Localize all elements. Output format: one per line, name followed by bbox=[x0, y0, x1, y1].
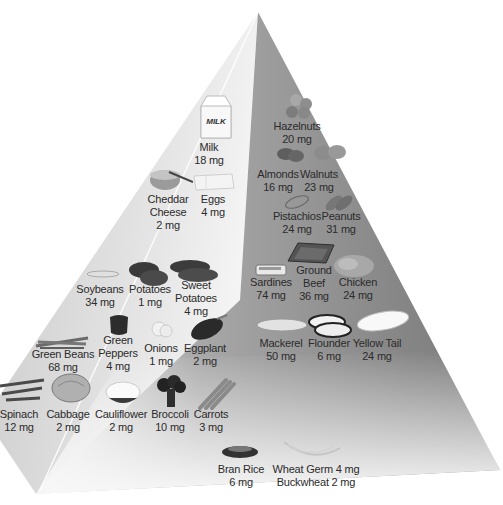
purine-value: 36 mg bbox=[296, 290, 332, 303]
purine-value: 4 mg bbox=[98, 360, 138, 373]
food-name: Soybeans bbox=[76, 283, 123, 296]
label-flounder: Flounder6 mg bbox=[308, 337, 350, 363]
pistachios-icon bbox=[282, 194, 312, 210]
purine-value: 2 mg bbox=[95, 421, 147, 434]
purine-value: 34 mg bbox=[76, 296, 123, 309]
food-name: Ground bbox=[296, 264, 332, 277]
wheat-icon bbox=[282, 440, 342, 462]
purine-value: 1 mg bbox=[129, 296, 171, 309]
food-name: Milk bbox=[194, 141, 224, 154]
food-name: Cheese bbox=[148, 206, 189, 219]
label-cabbage: Cabbage2 mg bbox=[46, 408, 89, 434]
label-yellow-tail: Yellow Tail24 mg bbox=[353, 337, 402, 363]
purine-value: 31 mg bbox=[322, 223, 361, 236]
food-name: Bran Rice bbox=[218, 463, 265, 476]
food-name: Onions bbox=[144, 342, 178, 355]
food-name: Buckwheat 2 mg bbox=[273, 476, 360, 489]
label-carrots: Carrots3 mg bbox=[194, 408, 229, 434]
food-name: Pistachios bbox=[273, 210, 321, 223]
label-eggplant: Eggplant2 mg bbox=[184, 342, 226, 368]
food-name: Green Beans bbox=[32, 348, 95, 361]
spinach-icon bbox=[0, 374, 46, 404]
food-name: Mackerel bbox=[259, 337, 302, 350]
cheese-icon bbox=[149, 166, 193, 192]
purine-value: 12 mg bbox=[0, 421, 38, 434]
yellowtail-icon bbox=[355, 308, 415, 334]
purine-value: 2 mg bbox=[184, 355, 226, 368]
food-name: Sardines bbox=[250, 276, 292, 289]
label-hazelnuts: Hazelnuts20 mg bbox=[273, 120, 320, 146]
svg-text:MILK: MILK bbox=[206, 117, 227, 126]
purine-value: 3 mg bbox=[194, 421, 229, 434]
label-peanuts: Peanuts31 mg bbox=[322, 210, 361, 236]
label-potatoes: Potatoes1 mg bbox=[129, 283, 171, 309]
label-soybeans: Soybeans34 mg bbox=[76, 283, 123, 309]
label-cheddar-cheese: CheddarCheese2 mg bbox=[148, 193, 189, 232]
purine-value: 6 mg bbox=[308, 350, 350, 363]
purine-value: 24 mg bbox=[339, 289, 377, 302]
food-name: Eggplant bbox=[184, 342, 226, 355]
food-name: Flounder bbox=[308, 337, 350, 350]
label-almonds: Almonds16 mg bbox=[257, 168, 298, 194]
purine-value: 2 mg bbox=[46, 421, 89, 434]
label-wheat-germ-buckwheat: Wheat Germ 4 mgBuckwheat 2 mg bbox=[273, 463, 360, 489]
purine-value: 23 mg bbox=[300, 181, 338, 194]
food-name: Sweet bbox=[175, 279, 217, 292]
hazelnuts-icon bbox=[278, 92, 318, 120]
food-name: Hazelnuts bbox=[273, 120, 320, 133]
purine-value: 24 mg bbox=[273, 223, 321, 236]
food-name: Potatoes bbox=[129, 283, 171, 296]
purine-value: 2 mg bbox=[148, 219, 189, 232]
broccoli-icon bbox=[154, 375, 188, 409]
label-onions: Onions1 mg bbox=[144, 342, 178, 368]
flounder-icon bbox=[307, 313, 353, 339]
label-cauliflower: Cauliflower2 mg bbox=[95, 408, 147, 434]
food-name: Green bbox=[98, 334, 138, 347]
cabbage-icon bbox=[50, 372, 92, 404]
onions-icon bbox=[150, 318, 174, 338]
purine-value: 6 mg bbox=[218, 476, 265, 489]
label-sweet-potatoes: SweetPotatoes4 mg bbox=[175, 279, 217, 318]
carrots-icon bbox=[196, 374, 238, 410]
purine-value: 68 mg bbox=[32, 361, 95, 374]
label-green-peppers: GreenPeppers4 mg bbox=[98, 334, 138, 373]
chicken-icon bbox=[332, 252, 376, 278]
cauliflower-icon bbox=[103, 380, 143, 406]
food-name: Eggs bbox=[201, 193, 225, 206]
purine-value: 50 mg bbox=[259, 350, 302, 363]
label-broccoli: Broccoli10 mg bbox=[151, 408, 189, 434]
purine-value: 1 mg bbox=[144, 355, 178, 368]
label-milk: Milk18 mg bbox=[194, 141, 224, 167]
purine-value: 18 mg bbox=[194, 154, 224, 167]
label-green-beans: Green Beans68 mg bbox=[32, 348, 95, 374]
label-chicken: Chicken24 mg bbox=[339, 276, 377, 302]
food-name: Almonds bbox=[257, 168, 298, 181]
walnuts-icon bbox=[313, 143, 349, 163]
purine-value: 4 mg bbox=[175, 305, 217, 318]
ground-beef-icon bbox=[286, 241, 336, 265]
food-name: Cheddar bbox=[148, 193, 189, 206]
purine-value: 10 mg bbox=[151, 421, 189, 434]
almonds-icon bbox=[276, 144, 306, 166]
label-pistachios: Pistachios24 mg bbox=[273, 210, 321, 236]
soybeans-icon bbox=[86, 269, 120, 279]
purine-value: 74 mg bbox=[250, 289, 292, 302]
label-bran-rice: Bran Rice6 mg bbox=[218, 463, 265, 489]
food-name: Yellow Tail bbox=[353, 337, 402, 350]
food-name: Peanuts bbox=[322, 210, 361, 223]
mackerel-icon bbox=[256, 316, 312, 334]
label-eggs: Eggs4 mg bbox=[201, 193, 225, 219]
food-name: Potatoes bbox=[175, 292, 217, 305]
label-spinach: Spinach12 mg bbox=[0, 408, 38, 434]
purine-value: 20 mg bbox=[273, 133, 320, 146]
label-walnuts: Walnuts23 mg bbox=[300, 168, 338, 194]
food-name: Peppers bbox=[98, 347, 138, 360]
sardine-can-icon bbox=[255, 263, 287, 277]
food-name: Cabbage bbox=[46, 408, 89, 421]
milk-carton-icon: MILK bbox=[195, 92, 237, 140]
rice-bowl-icon bbox=[220, 443, 260, 461]
food-name: Spinach bbox=[0, 408, 38, 421]
food-name: Chicken bbox=[339, 276, 377, 289]
food-name: Beef bbox=[296, 277, 332, 290]
food-name: Wheat Germ 4 mg bbox=[273, 463, 360, 476]
